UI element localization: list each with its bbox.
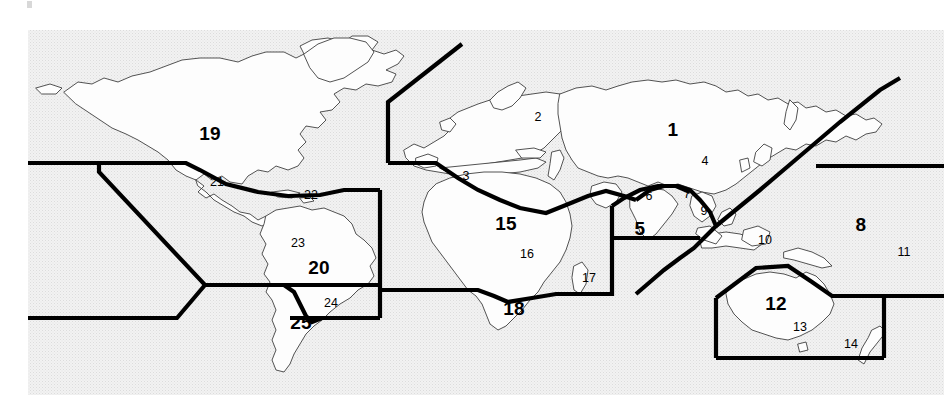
map-canvas [0,0,944,419]
world-region-map: 1 2 3 4 5 6 7 8 9 10 11 12 13 14 15 16 1… [0,0,944,419]
land-tasmania [798,342,808,352]
corner-artifact [27,1,32,8]
